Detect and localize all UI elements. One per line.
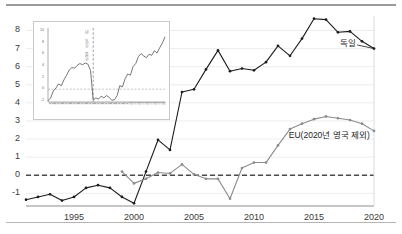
inset-x-axis-tick-labels: 1970197119721973197419751976197719781979…	[48, 102, 166, 119]
figure-container: -1012345678 199520002005201020152020 독일 …	[0, 0, 402, 234]
inset-chart-panel: -20246810 년 독일 통일 1970197119721973197419…	[33, 21, 170, 120]
inset-event-annotation: 년 독일 통일	[84, 30, 88, 60]
series-label-germany: 독일	[340, 39, 356, 48]
series-label-eu: EU(2020년 영국 제외)	[289, 131, 370, 140]
inset-series-path	[48, 37, 165, 101]
inset-axis-lines	[48, 28, 165, 102]
